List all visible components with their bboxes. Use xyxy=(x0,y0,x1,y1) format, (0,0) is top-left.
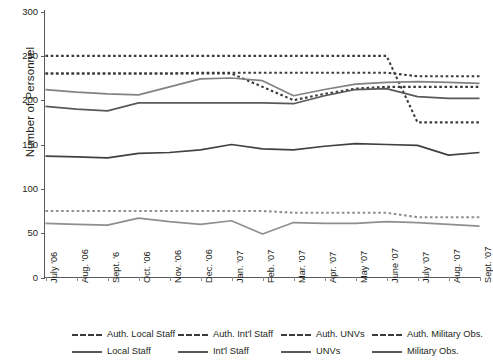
legend-label: Auth. Int'l Staff xyxy=(213,330,273,339)
legend-label: Auth. UNVs xyxy=(316,330,365,339)
legend-item[interactable]: Auth. Military Obs. xyxy=(372,326,483,343)
legend-item[interactable]: Local Staff xyxy=(72,343,151,360)
legend-item[interactable]: UNVs xyxy=(281,343,340,360)
legend-label: Local Staff xyxy=(107,347,151,356)
legend-dashed-swatch-icon xyxy=(72,334,102,336)
legend-item[interactable]: Auth. UNVs xyxy=(281,326,365,343)
legend-item[interactable]: Auth. Local Staff xyxy=(72,326,175,343)
legend-row-actual: Local StaffInt'l StaffUNVsMilitary Obs. xyxy=(0,343,486,360)
legend-dashed-swatch-icon xyxy=(372,334,402,336)
legend-label: UNVs xyxy=(316,347,340,356)
legend-solid-swatch-icon xyxy=(281,351,311,353)
series-line-auth-int-l-staff xyxy=(46,73,480,77)
series-line-auth-local-staff xyxy=(46,56,480,123)
legend-label: Int'l Staff xyxy=(213,347,249,356)
legend-item[interactable]: Auth. Int'l Staff xyxy=(178,326,273,343)
legend-solid-swatch-icon xyxy=(178,351,208,353)
chart-legend: Auth. Local StaffAuth. Int'l StaffAuth. … xyxy=(0,326,486,360)
legend-label: Military Obs. xyxy=(407,347,459,356)
series-line-unvs xyxy=(46,218,480,234)
series-line-local-staff xyxy=(46,89,480,111)
legend-dashed-swatch-icon xyxy=(178,334,208,336)
legend-row-authorized: Auth. Local StaffAuth. Int'l StaffAuth. … xyxy=(0,326,486,343)
legend-label: Auth. Military Obs. xyxy=(407,330,483,339)
series-line-military-obs xyxy=(46,144,480,158)
legend-label: Auth. Local Staff xyxy=(107,330,175,339)
legend-dashed-swatch-icon xyxy=(281,334,311,336)
legend-solid-swatch-icon xyxy=(372,351,402,353)
legend-item[interactable]: Military Obs. xyxy=(372,343,459,360)
series-line-auth-unvs xyxy=(46,211,480,217)
legend-item[interactable]: Int'l Staff xyxy=(178,343,249,360)
legend-solid-swatch-icon xyxy=(72,351,102,353)
